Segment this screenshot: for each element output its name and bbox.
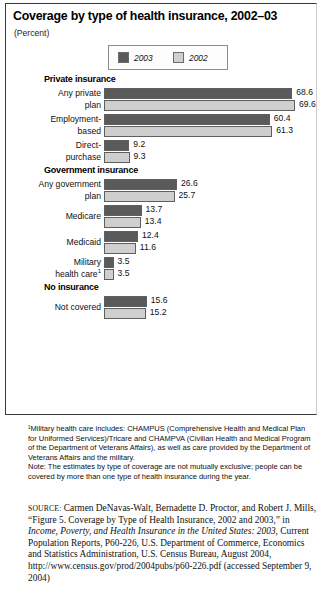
category-label: Any privateplan	[9, 88, 101, 111]
category-label: Medicare	[9, 211, 101, 223]
category-label: Militaryhealth care1	[9, 257, 101, 280]
chart-row: Any privateplan68.669.6	[0, 87, 324, 113]
bar-2003	[104, 205, 142, 216]
legend-label-2003: 2003	[134, 53, 153, 63]
source-label: SOURCE:	[28, 504, 61, 513]
chart-row: Direct-purchase9.29.3	[0, 139, 324, 165]
group-heading: Private insurance	[44, 74, 324, 87]
source-italic-title: Income, Poverty, and Health Insurance in…	[28, 526, 278, 536]
legend-item-2002: 2002	[173, 52, 208, 63]
bar-value-label: 61.3	[276, 125, 293, 135]
legend-swatch-2002	[173, 52, 184, 63]
bar-2003	[104, 257, 114, 268]
bar-chart: Private insuranceAny privateplan68.669.6…	[0, 74, 324, 321]
bar-value-label: 68.6	[296, 87, 313, 97]
group-heading: Government insurance	[44, 165, 324, 178]
bar-2002	[104, 243, 136, 254]
bar-value-label: 9.3	[134, 151, 146, 161]
footnote-marker: 1	[98, 268, 101, 274]
bar-2003	[104, 114, 270, 125]
chart-row: Any governmentplan26.625.7	[0, 178, 324, 204]
legend-swatch-2003	[118, 52, 129, 63]
bar-2003	[104, 140, 129, 151]
chart-legend: 2003 2002	[108, 45, 228, 70]
bar-value-label: 26.6	[181, 178, 198, 188]
category-label: Medicaid	[9, 237, 101, 249]
bar-2003	[104, 179, 177, 190]
category-label: Employment-based	[9, 114, 101, 137]
bar-value-label: 12.4	[142, 230, 159, 240]
bar-value-label: 13.4	[145, 216, 162, 226]
chart-row: Employment-based60.461.3	[0, 113, 324, 139]
bar-value-label: 60.4	[274, 113, 291, 123]
bar-2002	[104, 269, 114, 280]
bar-2002	[104, 308, 146, 319]
bar-2002	[104, 191, 175, 202]
bar-2002	[104, 126, 272, 137]
figure-page: Coverage by type of health insurance, 20…	[0, 0, 324, 590]
units-subtitle: (Percent)	[14, 28, 49, 38]
category-label: Any governmentplan	[9, 179, 101, 202]
bar-2002	[104, 152, 130, 163]
group-heading: No insurance	[44, 282, 324, 295]
chart-row: Medicare13.713.4	[0, 204, 324, 230]
category-label: Not covered	[9, 302, 101, 314]
footnote-military: ¹Military health care includes: CHAMPUS …	[28, 424, 314, 462]
source-citation: SOURCE: Carmen DeNavas-Walt, Bernadette …	[28, 503, 318, 584]
page-title: Coverage by type of health insurance, 20…	[13, 9, 308, 23]
bar-value-label: 69.6	[299, 99, 316, 109]
chart-row: Medicaid12.411.6	[0, 230, 324, 256]
bar-2003	[104, 88, 292, 99]
source-text-1: Carmen DeNavas-Walt, Bernadette D. Proct…	[28, 503, 316, 525]
bar-value-label: 11.6	[140, 242, 156, 252]
chart-row: Not covered15.615.2	[0, 295, 324, 321]
bar-value-label: 13.7	[146, 204, 163, 214]
bar-value-label: 15.2	[150, 307, 167, 317]
chart-notes: ¹Military health care includes: CHAMPUS …	[28, 424, 314, 482]
bar-value-label: 3.5	[118, 268, 130, 278]
bar-value-label: 3.5	[118, 256, 130, 266]
legend-label-2002: 2002	[189, 53, 208, 63]
bar-2002	[104, 217, 141, 228]
bar-2003	[104, 231, 138, 242]
category-label: Direct-purchase	[9, 140, 101, 163]
bar-value-label: 15.6	[151, 295, 168, 305]
note-estimates: Note: The estimates by type of coverage …	[28, 462, 314, 481]
bar-value-label: 25.7	[179, 190, 196, 200]
bar-value-label: 9.2	[133, 139, 145, 149]
bar-2003	[104, 296, 147, 307]
legend-item-2003: 2003	[118, 52, 153, 63]
bar-2002	[104, 100, 295, 111]
chart-row: Militaryhealth care13.53.5	[0, 256, 324, 282]
